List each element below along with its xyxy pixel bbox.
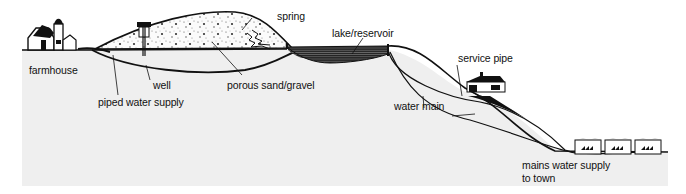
label-spring: spring [277,10,305,22]
label-well: well [153,79,171,91]
label-water-main: water main [394,100,444,112]
label-lake-reservoir: lake/reservoir [332,27,394,39]
label-porous-sand-gravel: porous sand/gravel [227,79,315,91]
house-illustration [466,72,505,92]
porous-gravel-mound [95,12,292,49]
label-to-town: to town [522,172,555,184]
label-farmhouse: farmhouse [29,64,78,76]
label-service-pipe: service pipe [458,52,513,64]
label-piped-water-supply: piped water supply [98,96,184,108]
town-factories [575,139,661,154]
label-mains-water-supply: mains water supply [522,159,610,171]
farmhouse-illustration [28,19,76,50]
